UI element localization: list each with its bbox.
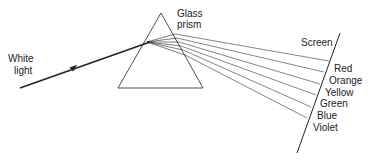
label-yellow: Yellow	[325, 87, 354, 98]
label-red: Red	[334, 63, 352, 74]
prism-dispersion-diagram: White light Glass prism Screen Red Orang…	[0, 0, 377, 163]
label-blue: Blue	[317, 110, 337, 121]
white-light-label: White	[8, 53, 34, 64]
white-light-label-2: light	[14, 65, 33, 76]
label-orange: Orange	[329, 75, 363, 86]
prism-label: Glass	[177, 8, 203, 19]
white-light-beam	[20, 42, 150, 88]
label-green: Green	[320, 98, 348, 109]
prism-label-2: prism	[177, 19, 201, 30]
internal-rays	[147, 34, 185, 55]
ray-blue	[183, 50, 311, 107]
screen-label: Screen	[301, 37, 333, 48]
ray-violet	[185, 55, 307, 118]
label-violet: Violet	[313, 122, 338, 133]
